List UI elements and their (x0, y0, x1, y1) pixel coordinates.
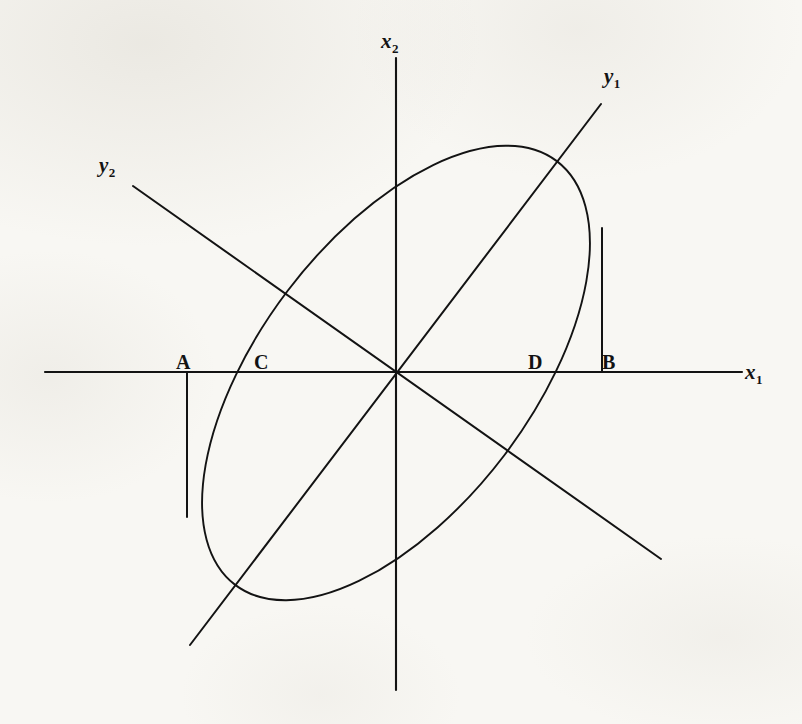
point-label-a: A (176, 352, 190, 372)
x1-axis-label: x1 (745, 362, 763, 386)
x2-axis-label: x2 (381, 31, 399, 55)
figure-canvas: x2 x1 y1 y2 A C D B (0, 0, 802, 724)
y1-axis-label: y1 (604, 66, 620, 90)
diagram-svg (0, 0, 802, 724)
y2-axis-label: y2 (99, 155, 115, 179)
point-label-d: D (528, 352, 542, 372)
point-label-b: B (602, 352, 615, 372)
point-label-c: C (254, 352, 268, 372)
